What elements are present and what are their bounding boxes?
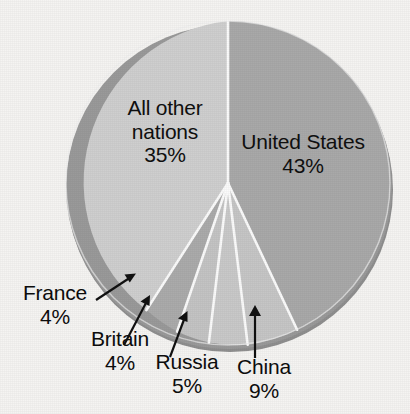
- pie-chart: United States 43% All other nations 35% …: [0, 0, 410, 414]
- callout-label-china-percent: 9%: [224, 379, 304, 403]
- callout-label-russia-percent: 5%: [142, 374, 232, 398]
- callout-label-france-name: France: [23, 281, 87, 304]
- slice-label-all-other-nations: All other nations 35%: [105, 96, 225, 167]
- callout-label-russia: Russia 5%: [142, 350, 232, 398]
- callout-label-china-name: China: [237, 355, 291, 378]
- callout-label-russia-name: Russia: [156, 350, 219, 373]
- callout-label-france-percent: 4%: [10, 305, 100, 329]
- callout-label-china: China 9%: [224, 355, 304, 403]
- callout-label-britain-name: Britain: [91, 327, 149, 350]
- callout-label-france: France 4%: [10, 281, 100, 329]
- slice-label-united-states: United States 43%: [228, 130, 378, 177]
